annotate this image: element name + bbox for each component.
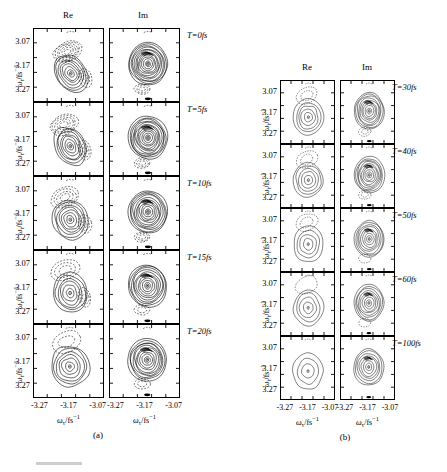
waiting-time-label-60: T=60fs (392, 274, 417, 284)
y-tick-label: 3.07 (251, 278, 277, 288)
y-tick-label: 3.07 (251, 214, 277, 224)
contour-plot-re-T60 (280, 272, 335, 336)
contour-plot-im-T30 (340, 80, 395, 144)
contour-plot-im-T100 (340, 336, 395, 400)
y-axis-label: ωt/fs−1 (259, 173, 272, 195)
y-axis-label: ωt/fs−1 (259, 109, 272, 131)
contour-plot-im-T50 (340, 208, 395, 272)
y-tick-label: 3.07 (251, 342, 277, 352)
y-axis-label: ωt/fs−1 (259, 365, 272, 387)
scan-artifact (36, 462, 82, 465)
subfigure-caption-b: (b) (325, 432, 365, 442)
contour-plot-re-T50 (280, 208, 335, 272)
contour-plot-re-T30 (280, 80, 335, 144)
x-axis-label: ωτ/fs−1 (343, 415, 393, 428)
y-tick-label: 3.07 (251, 150, 277, 160)
waiting-time-label-40: T=40fs (392, 146, 417, 156)
y-axis-label: ωt/fs−1 (259, 237, 272, 259)
contour-plot-im-T60 (340, 272, 395, 336)
panel-b: ReIm3.073.173.27ωt/fs−1T=30fs3.073.173.2… (0, 0, 447, 472)
contour-plot-re-T100 (280, 336, 335, 400)
y-tick-label: 3.07 (251, 86, 277, 96)
contour-plot-re-T40 (280, 144, 335, 208)
x-tick-label: -3.07 (372, 403, 408, 412)
column-header-im: Im (352, 62, 382, 72)
column-header-re: Re (292, 62, 322, 72)
y-axis-label: ωt/fs−1 (259, 301, 272, 323)
contour-plot-im-T40 (340, 144, 395, 208)
waiting-time-label-100: T=100fs (392, 338, 421, 348)
figure-2d-spectra: ReIm3.073.173.27ωt/fs−1T=0fs3.073.173.27… (0, 0, 447, 472)
waiting-time-label-30: T=30fs (392, 82, 417, 92)
waiting-time-label-50: T=50fs (392, 210, 417, 220)
x-axis-label: ωτ/fs−1 (283, 415, 333, 428)
